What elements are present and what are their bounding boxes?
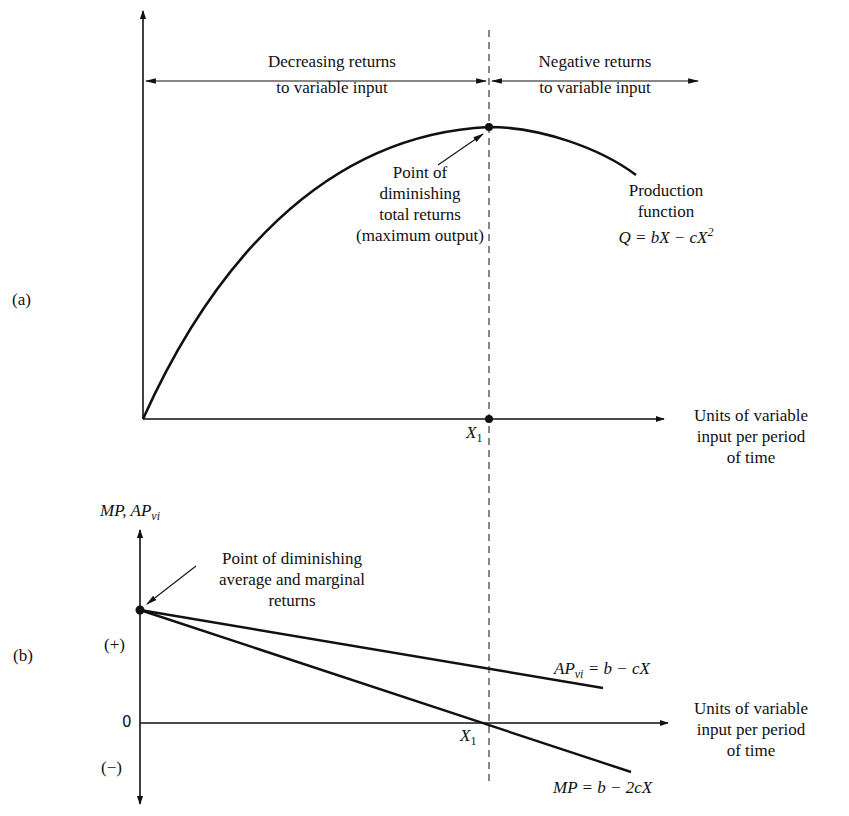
ap-eq-rest: = b − cX (583, 659, 649, 678)
max-point-pointer (438, 134, 483, 165)
max-output-label: Point of diminishing total returns (maxi… (356, 162, 484, 246)
b-xlabel-line2: input per period (676, 719, 826, 740)
eq-body: = bX − cX (631, 228, 708, 247)
panel-a-tag: (a) (12, 289, 31, 310)
b-point-line2: average and marginal (192, 569, 392, 590)
max-output-line1: Point of (356, 162, 484, 183)
eq-exp: 2 (708, 225, 714, 239)
a-xlabel-line3: of time (676, 447, 826, 468)
mp-equation-label: MP = b − 2cX (553, 777, 652, 798)
negative-returns-label: Negative returns to variable input (510, 55, 680, 98)
b-point-line3: returns (192, 590, 392, 611)
max-output-line4: (maximum output) (356, 225, 484, 246)
a-xlabel-line1: Units of variable (676, 405, 826, 426)
eq-q: Q (618, 228, 630, 247)
diminishing-returns-label: Point of diminishing average and margina… (192, 548, 392, 611)
panel-b-tag: (b) (13, 645, 33, 666)
decreasing-returns-label: Decreasing returns to variable input (232, 55, 432, 98)
production-function-label: Production function Q = bX − cX2 (586, 180, 746, 248)
x1-label-b: X1 (460, 725, 476, 752)
x1-label-a: X1 (466, 422, 482, 449)
panel-b-y-axis-label: MP, APvi (100, 500, 160, 527)
x1-b-sub: 1 (470, 734, 476, 748)
b-xlabel-line1: Units of variable (676, 698, 826, 719)
diminishing-returns-point (136, 606, 145, 615)
b-ylabel-main: MP, AP (100, 501, 151, 520)
a-xlabel-line2: input per period (676, 426, 826, 447)
mp-line (140, 610, 631, 772)
diminishing-point-pointer (147, 566, 196, 604)
ap-equation-label: APvi = b − cX (554, 658, 650, 685)
b-xlabel-line3: of time (676, 740, 826, 761)
negative-returns-line1: Negative returns (510, 51, 680, 72)
x1-point-a (485, 415, 493, 423)
production-function-equation: Q = bX − cX2 (586, 222, 746, 248)
ap-line (140, 610, 603, 688)
x1-a-sub: 1 (476, 431, 482, 445)
negative-returns-line2: to variable input (510, 77, 680, 98)
decreasing-returns-line2: to variable input (232, 77, 432, 98)
minus-label: (−) (101, 757, 122, 778)
panel-a-x-axis-label: Units of variable input per period of ti… (676, 405, 826, 468)
x1-a-x: X (466, 423, 476, 442)
production-function-line2: function (586, 201, 746, 222)
production-function-line1: Production (586, 180, 746, 201)
x1-b-x: X (460, 726, 470, 745)
max-output-line3: total returns (356, 204, 484, 225)
b-point-line1: Point of diminishing (192, 548, 392, 569)
ap-eq-main: AP (554, 659, 575, 678)
plus-label: (+) (104, 634, 125, 655)
b-ylabel-sub: vi (151, 509, 160, 523)
panel-b-x-axis-label: Units of variable input per period of ti… (676, 698, 826, 761)
max-output-line2: diminishing (356, 183, 484, 204)
zero-label: 0 (122, 712, 132, 733)
max-output-point (485, 123, 493, 131)
decreasing-returns-line1: Decreasing returns (232, 51, 432, 72)
